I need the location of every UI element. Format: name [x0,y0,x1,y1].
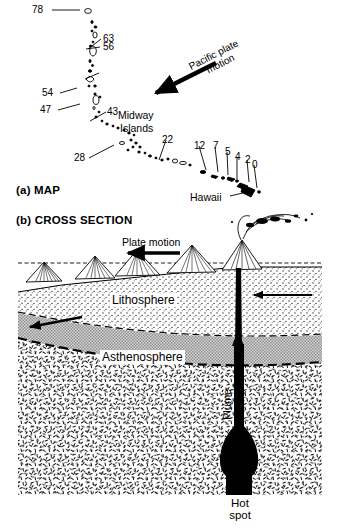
hot-spot-label-line1: Hot [231,497,249,509]
midway-islands-label-line1: Midway [118,109,154,121]
age-label-54: 54 [42,87,53,98]
age-label-47: 47 [40,104,51,115]
volcano-2 [75,256,115,279]
volcano-4 [167,245,216,273]
age-label-43: 43 [107,106,118,117]
age-label-0: 0 [252,159,258,170]
age-label-12: 12 [194,140,205,151]
eruption-plume [231,213,313,240]
age-label-28: 28 [74,152,85,163]
plume-stem [234,344,244,430]
age-label-5: 5 [225,146,231,157]
active-volcano [222,213,313,270]
plume-label: Plume [221,389,233,420]
figure-svg [0,0,339,532]
midway-islands-label-line2: Islands [120,122,153,134]
age-label-4: 4 [235,151,241,162]
map-panel [52,9,260,197]
age-label-22: 22 [162,134,173,145]
panel-a-title: (a) MAP [16,184,60,196]
age-label-78: 78 [32,4,43,15]
panel-b-title: (b) CROSS SECTION [16,214,133,226]
plate-motion-label: Plate motion [122,236,180,248]
age-label-56: 56 [103,41,114,52]
volcano-1 [26,262,62,282]
age-label-7: 7 [213,140,219,151]
hot-spot-label: Hot spot [216,497,264,521]
age-label-2: 2 [245,154,251,165]
hot-spot-label-line2: spot [229,509,251,521]
hawaii-label: Hawaii [190,191,222,203]
age-leader-lines [52,10,257,196]
asthenosphere-label: Asthenosphere [100,350,185,364]
lithosphere-label: Lithosphere [110,293,177,307]
figure-hotspot-chain: 78 63 56 54 47 43 28 22 12 7 5 4 2 0 Mid… [0,0,339,532]
